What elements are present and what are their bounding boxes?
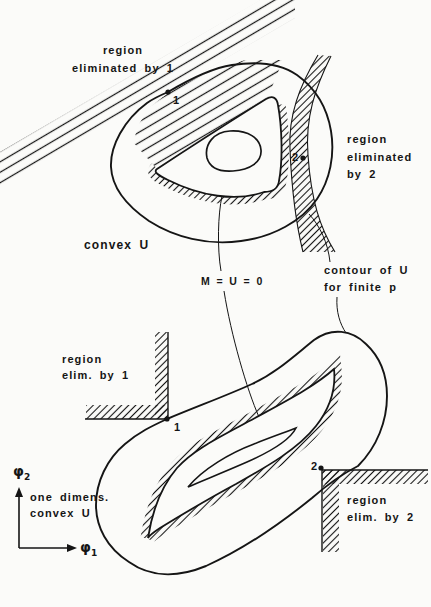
label-contour-of-u: contour of U for finite p bbox=[324, 262, 409, 295]
phi-symbol: φ bbox=[13, 463, 24, 479]
label-region-elim-by-1: region elim. by 1 bbox=[62, 351, 129, 383]
point-2-label-top: 2 bbox=[292, 152, 298, 163]
label-line: region bbox=[60, 41, 186, 59]
label-line: contour of U bbox=[324, 262, 409, 279]
leader-m-label-down bbox=[224, 291, 259, 417]
label-line: region bbox=[62, 351, 129, 367]
label-line: elim. by 2 bbox=[347, 509, 414, 526]
point-1-label-bottom: 1 bbox=[174, 422, 180, 433]
label-line: region bbox=[347, 131, 412, 149]
label-line: by 2 bbox=[347, 166, 412, 184]
phi2-axis-label: φ2 bbox=[13, 464, 30, 484]
label-line: region bbox=[347, 492, 414, 509]
label-line: elim. by 1 bbox=[62, 367, 129, 383]
point-2-marker-bottom bbox=[318, 465, 323, 470]
label-region-eliminated-by-1: region eliminated by 1 bbox=[60, 41, 186, 77]
label-line: one dimens. bbox=[30, 490, 109, 506]
hatch-corner1-horizontal bbox=[86, 405, 168, 419]
label-line: for finite p bbox=[324, 279, 409, 296]
phi-symbol: φ bbox=[80, 539, 91, 555]
phi-subscript: 2 bbox=[24, 472, 30, 482]
label-m-u-zero: M = U = 0 bbox=[201, 273, 263, 289]
label-convex-u: convex U bbox=[84, 236, 149, 254]
leader-m-label-up bbox=[218, 196, 222, 271]
point-2-marker-top bbox=[300, 155, 305, 160]
label-line: eliminated bbox=[347, 149, 412, 167]
phi-subscript: 1 bbox=[91, 548, 97, 558]
point-2-label-bottom: 2 bbox=[311, 461, 317, 472]
label-one-dimens-convex-u: one dimens. convex U bbox=[30, 490, 109, 521]
label-line: convex U bbox=[30, 506, 109, 522]
label-region-eliminated-by-2: region eliminated by 2 bbox=[347, 131, 412, 184]
phi1-axis-label: φ1 bbox=[80, 540, 97, 560]
label-region-elim-by-2: region elim. by 2 bbox=[347, 492, 414, 525]
point-1-marker-top bbox=[165, 89, 170, 94]
label-line: eliminated by 1 bbox=[60, 59, 186, 77]
point-1-label-top: 1 bbox=[173, 95, 179, 106]
leader-contour-label-down bbox=[337, 297, 346, 333]
phi1-axis-arrowhead bbox=[67, 544, 77, 552]
top-inner-contour bbox=[206, 131, 261, 171]
point-1-marker-bottom bbox=[164, 416, 169, 421]
figure-canvas: region eliminated by 1 region eliminated… bbox=[0, 0, 431, 607]
phi2-axis-arrowhead bbox=[15, 487, 23, 497]
